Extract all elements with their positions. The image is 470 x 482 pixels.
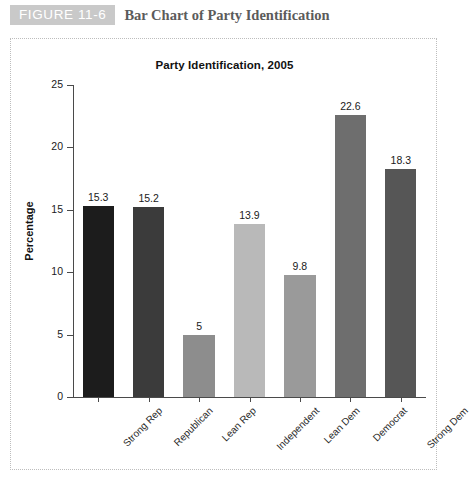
bar[interactable]: 15.3 [83, 206, 114, 397]
bar-value-label: 15.3 [88, 191, 108, 203]
bar-value-label: 15.2 [138, 192, 158, 204]
figure-frame: Party Identification, 2005 Percentage 05… [10, 38, 437, 470]
bar-value-label: 13.9 [239, 209, 259, 221]
bars-layer: 15.315.2513.99.822.618.3 [73, 85, 426, 397]
figure-title: Bar Chart of Party Identification [124, 7, 329, 24]
x-tick [350, 397, 351, 402]
x-tick [199, 397, 200, 402]
bar[interactable]: 18.3 [385, 169, 416, 397]
x-axis-label: Republican [171, 405, 214, 448]
bar[interactable]: 5 [183, 335, 214, 397]
chart-title: Party Identification, 2005 [11, 59, 438, 71]
x-axis-label: Strong Rep [121, 405, 165, 449]
y-axis-label: Percentage [23, 181, 35, 281]
y-tick-label: 0 [57, 390, 63, 402]
bar[interactable]: 13.9 [234, 224, 265, 397]
x-tick [98, 397, 99, 402]
y-tick-label: 10 [51, 265, 63, 277]
x-axis-label: Independent [274, 405, 321, 452]
x-tick [300, 397, 301, 402]
x-axis-label: Lean Dem [321, 405, 361, 445]
bar-value-label: 9.8 [293, 260, 308, 272]
y-tick-label: 20 [51, 140, 63, 152]
y-tick-label: 25 [51, 78, 63, 90]
y-tick: 0 [67, 397, 73, 398]
figure-header: FIGURE 11-6 Bar Chart of Party Identific… [0, 0, 445, 30]
y-tick-label: 15 [51, 203, 63, 215]
x-axis-label: Democrat [371, 405, 409, 443]
bar-value-label: 5 [196, 320, 202, 332]
bar-chart: Party Identification, 2005 Percentage 05… [11, 39, 438, 471]
x-axis-label: Strong Dem [424, 405, 470, 451]
x-tick [250, 397, 251, 402]
x-tick [149, 397, 150, 402]
figure-number-badge: FIGURE 11-6 [10, 5, 115, 26]
caption-cutoff [12, 474, 312, 482]
x-tick [401, 397, 402, 402]
bar-value-label: 22.6 [340, 100, 360, 112]
bar[interactable]: 9.8 [284, 275, 315, 397]
y-tick-label: 5 [57, 328, 63, 340]
x-axis-label: Lean Rep [220, 405, 258, 443]
bar[interactable]: 15.2 [133, 207, 164, 397]
bar[interactable]: 22.6 [335, 115, 366, 397]
bar-value-label: 18.3 [391, 154, 411, 166]
